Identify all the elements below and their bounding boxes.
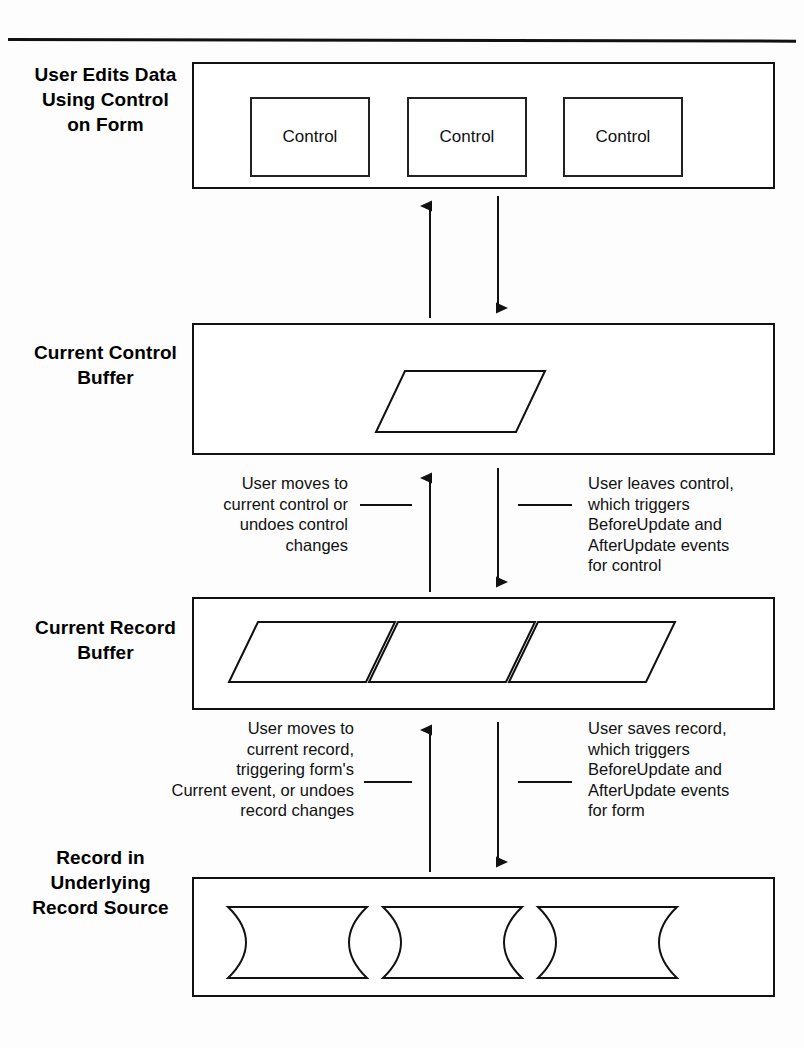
stage-label-form: User Edits Data Using Control on Form [28,62,183,137]
field-label-3: Field [545,905,670,967]
field-label-1: Field [235,905,360,967]
connector-form-control-buffer [430,196,498,318]
connector-control-buffer-record-buffer [360,468,572,592]
control-buffer-parallelogram-label [400,370,545,432]
stage-label-record-buffer: Current Record Buffer [28,615,183,665]
control-box-1[interactable]: Control [250,97,370,177]
connector-record-buffer-record-source [364,722,572,872]
note-record-buffer-down: User saves record, which triggers Before… [588,718,803,821]
stage-label-record-source: Record in Underlying Record Source [18,845,183,920]
stage-label-control-buffer: Current Control Buffer [28,340,183,390]
control-box-2[interactable]: Control [407,97,527,177]
diagram-page: User Edits Data Using Control on Form Co… [0,0,804,1048]
control-box-3[interactable]: Control [563,97,683,177]
top-divider-rule [8,38,796,43]
field-label-2: Field [390,905,515,967]
stage-record-buffer [192,597,775,710]
note-record-buffer-up: User moves to current record, triggering… [92,718,354,821]
note-control-buffer-down: User leaves control, which triggers Befo… [588,473,803,576]
control-buffer-parallelogram [400,370,545,432]
note-control-buffer-up: User moves to current control or undoes … [110,473,348,555]
